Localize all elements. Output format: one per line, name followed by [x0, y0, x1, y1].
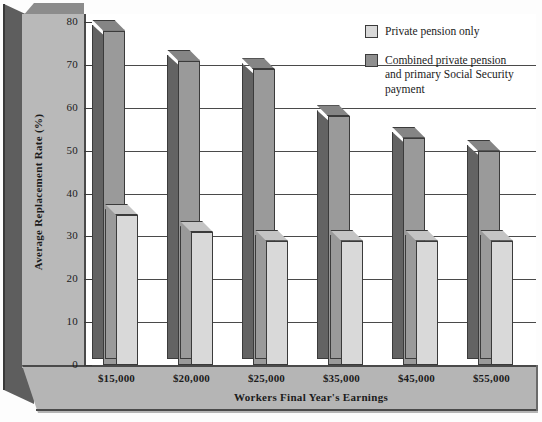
x-tick-label-3: $35,000 [304, 372, 379, 384]
legend-label-0: Private pension only [385, 24, 480, 39]
chart-left-wall-edge [3, 4, 5, 390]
y-tick-mark-70 [84, 65, 92, 66]
bar-front [416, 241, 438, 365]
x-tick-label-5: $55,000 [454, 372, 529, 384]
bar-side [92, 25, 103, 359]
bar-side [480, 235, 491, 359]
chart-screenshot: 01020304050607080 $15,000$20,000$25,000$… [0, 0, 542, 422]
legend: Private pension only Combined private pe… [365, 24, 535, 110]
bar-front [191, 232, 213, 365]
bar-front [116, 215, 138, 365]
bar-private-4 [416, 230, 438, 365]
bar-side [255, 235, 266, 359]
legend-label-1: Combined private pension and primary Soc… [385, 53, 514, 97]
bar-side [467, 145, 478, 359]
y-tick-mark-60 [84, 108, 92, 109]
x-tick-label-2: $25,000 [229, 372, 304, 384]
y-tick-mark-30 [84, 236, 92, 237]
y-tick-mark-0 [84, 365, 92, 366]
bar-side [405, 235, 416, 359]
bar-front [266, 241, 288, 365]
x-axis-title: Workers Final Year's Earnings [86, 391, 536, 403]
y-axis-title: Average Replacement Rate (%) [32, 42, 44, 342]
bar-side [180, 226, 191, 359]
bar-private-1 [191, 221, 213, 365]
bar-side [392, 132, 403, 359]
y-tick-label-0: 0 [24, 358, 78, 370]
bar-side [167, 55, 178, 359]
bar-private-3 [341, 230, 363, 365]
y-tick-mark-40 [84, 194, 92, 195]
legend-swatch-icon-light [365, 25, 378, 38]
legend-label-1-line-1: and primary Social Security [385, 67, 514, 82]
bar-front [341, 241, 363, 365]
x-tick-label-1: $20,000 [154, 372, 229, 384]
x-tick-label-0: $15,000 [79, 372, 154, 384]
y-tick-label-80: 80 [24, 15, 78, 27]
bar-private-0 [116, 204, 138, 365]
y-tick-mark-50 [84, 151, 92, 152]
legend-item-private-pension-only[interactable]: Private pension only [365, 24, 535, 39]
y-tick-mark-20 [84, 279, 92, 280]
chart-floor-front-edge [36, 409, 538, 411]
bar-side [105, 209, 116, 359]
y-tick-mark-10 [84, 322, 92, 323]
legend-swatch-icon-dark [365, 54, 378, 67]
y-tick-mark-80 [84, 22, 92, 23]
bar-private-5 [491, 230, 513, 365]
legend-label-1-line-0: Combined private pension [385, 53, 514, 68]
chart-floor-right-edge [536, 365, 538, 411]
legend-item-combined[interactable]: Combined private pension and primary Soc… [365, 53, 535, 97]
bar-front [491, 241, 513, 365]
x-tick-label-4: $45,000 [379, 372, 454, 384]
bar-side [330, 235, 341, 359]
bar-side [242, 63, 253, 359]
legend-label-1-line-2: payment [385, 82, 514, 97]
bar-side [317, 110, 328, 359]
bar-private-2 [266, 230, 288, 365]
